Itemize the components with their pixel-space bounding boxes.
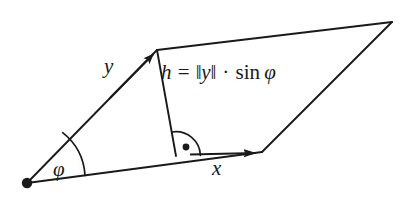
- right-edge: [262, 22, 392, 152]
- right-angle-arc: [172, 132, 200, 156]
- angle-phi-label: φ: [53, 159, 65, 180]
- formula-dot-operator: ·: [216, 60, 236, 84]
- formula-sin-function: sin: [235, 60, 264, 84]
- formula-h-term: h: [161, 60, 172, 84]
- vector-y-arrow: [110, 54, 154, 98]
- top-edge: [157, 22, 392, 50]
- formula-equals: =: [172, 60, 196, 84]
- height-formula-label: h = ‖y‖ · sin φ: [161, 62, 276, 83]
- vector-x-label: x: [212, 158, 221, 179]
- formula-y-term: y: [201, 60, 210, 84]
- vector-y-label: y: [104, 56, 113, 77]
- phi-arc: [63, 133, 85, 176]
- origin-vertex-dot: [22, 178, 32, 188]
- formula-phi-term: φ: [264, 60, 276, 84]
- vector-parallelogram-figure: y x φ h = ‖y‖ · sin φ: [0, 0, 409, 199]
- right-angle-dot: [183, 144, 190, 151]
